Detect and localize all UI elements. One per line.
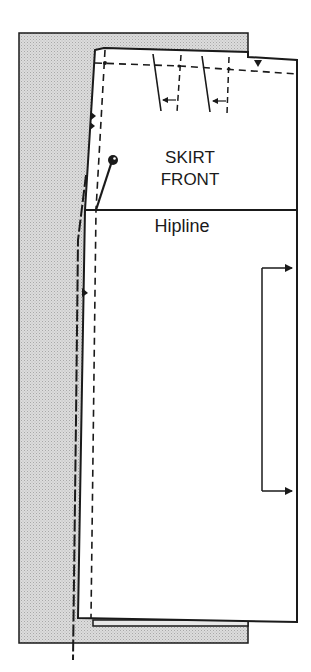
pattern-title-line1: SKIRT (165, 148, 215, 167)
skirt-pattern-diagram: SKIRT FRONT Hipline (0, 0, 311, 672)
pattern-title-line2: FRONT (161, 170, 220, 189)
hipline-label: Hipline (154, 216, 209, 236)
skirt-front-pattern-piece (78, 48, 297, 622)
